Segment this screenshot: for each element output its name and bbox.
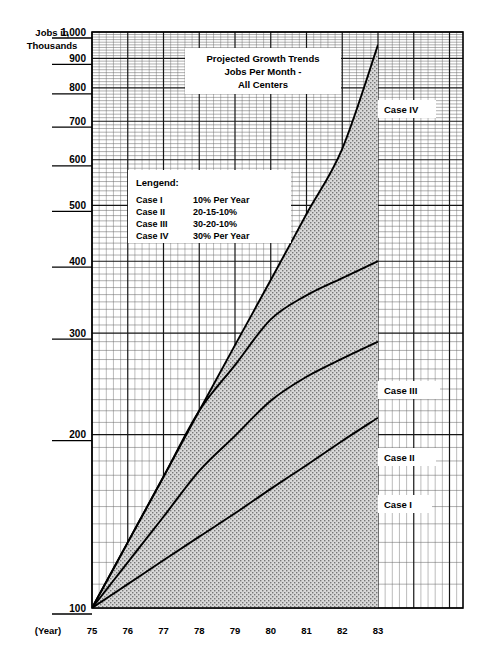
legend-rate-1: 20-15-10%	[193, 207, 237, 217]
legend-name-2: Case III	[136, 219, 168, 229]
x-tick-79: 79	[230, 625, 241, 636]
x-tick-78: 78	[194, 625, 205, 636]
x-tick-77: 77	[158, 625, 169, 636]
y-axis-title-line1: Jobs in	[35, 27, 68, 38]
curve-label-case2: Case II	[378, 448, 436, 466]
legend-name-1: Case II	[136, 207, 165, 217]
y-tick-400: 400	[69, 256, 86, 267]
x-tick-80: 80	[265, 625, 276, 636]
curve-label-case3-text: Case III	[384, 385, 417, 396]
legend-rate-0: 10% Per Year	[193, 195, 250, 205]
chart-title-line1: Projected Growth Trends	[207, 53, 320, 64]
y-tick-100: 100	[69, 603, 86, 614]
curve-label-case1: Case I	[378, 495, 432, 513]
y-tick-500: 500	[69, 200, 86, 211]
x-axis-title: (Year)	[35, 625, 61, 636]
curve-label-case3: Case III	[378, 381, 440, 399]
legend-name-0: Case I	[136, 195, 163, 205]
y-tick-700: 700	[69, 116, 86, 127]
chart-title-line2: Jobs Per Month -	[224, 66, 301, 77]
curve-label-case4: Case IV	[378, 100, 436, 118]
curve-label-case1-text: Case I	[384, 499, 412, 510]
legend-name-3: Case IV	[136, 231, 169, 241]
y-tick-800: 800	[69, 82, 86, 93]
semi-log-growth-chart: 1,000900800700600500400300200100 7576777…	[0, 0, 480, 671]
y-tick-600: 600	[69, 154, 86, 165]
x-tick-83: 83	[373, 625, 384, 636]
curve-label-case2-text: Case II	[384, 452, 415, 463]
y-axis-title-line2: Thousands	[27, 40, 78, 51]
x-tick-75: 75	[87, 625, 98, 636]
chart-page: 1,000900800700600500400300200100 7576777…	[0, 0, 480, 671]
y-tick-900: 900	[69, 53, 86, 64]
y-tick-200: 200	[69, 429, 86, 440]
curve-label-case4-text: Case IV	[384, 104, 419, 115]
y-tick-300: 300	[69, 328, 86, 339]
x-tick-82: 82	[337, 625, 348, 636]
x-tick-81: 81	[301, 625, 312, 636]
x-tick-76: 76	[122, 625, 133, 636]
legend-box: Lengend: Case I 10% Per Year Case II 20-…	[128, 170, 291, 243]
chart-title-box: Projected Growth Trends Jobs Per Month -…	[185, 48, 341, 94]
legend-rate-2: 30-20-10%	[193, 219, 237, 229]
x-axis-tick-labels: 757677787980818283	[87, 625, 384, 636]
chart-title-line3: All Centers	[238, 79, 288, 90]
legend-rate-3: 30% Per Year	[193, 231, 250, 241]
legend-heading: Lengend:	[136, 177, 179, 188]
